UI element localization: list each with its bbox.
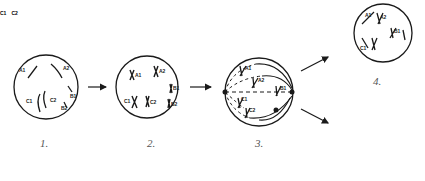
svg-text:A1: A1: [245, 65, 252, 71]
stage-3-caption: 3.: [255, 137, 263, 149]
svg-text:A2: A2: [258, 77, 265, 83]
stage-1-caption: 1.: [40, 137, 48, 149]
svg-text:C1: C1: [26, 98, 33, 104]
stage-2-cell: A1 A2 C1 C2 B1 B2: [116, 56, 180, 118]
svg-text:B1: B1: [280, 85, 287, 91]
stage-3-cell: A1 A2 C1 C2 B1: [223, 58, 295, 126]
svg-text:A2: A2: [63, 65, 70, 71]
svg-text:C1: C1: [124, 98, 131, 104]
stage-4-caption: 4.: [373, 75, 381, 87]
svg-text:C2: C2: [150, 99, 157, 105]
svg-text:A2: A2: [159, 68, 166, 74]
svg-text:B2: B2: [61, 105, 68, 111]
svg-text:B1: B1: [394, 28, 401, 34]
svg-text:C1: C1: [241, 96, 248, 102]
svg-text:A1: A1: [19, 67, 26, 73]
svg-text:B2: B2: [171, 101, 178, 107]
svg-text:C2: C2: [50, 97, 57, 103]
svg-text:C2: C2: [249, 107, 256, 113]
svg-text:B1: B1: [70, 93, 77, 99]
svg-text:A1: A1: [365, 12, 372, 18]
cell-division-diagram: A1 A2 C1 C2 B1 B2 A1 A2 C1 C2 B1 B2: [0, 0, 425, 181]
svg-text:A2: A2: [380, 14, 387, 20]
stage-2-caption: 2.: [147, 137, 155, 149]
svg-text:B1: B1: [173, 85, 180, 91]
svg-text:A1: A1: [135, 72, 142, 78]
stage-4-cell: A1 A2 B1 C1: [354, 4, 412, 62]
stage-1-cell: A1 A2 C1 C2 B1 B2: [14, 55, 78, 119]
svg-text:C1: C1: [360, 45, 367, 51]
